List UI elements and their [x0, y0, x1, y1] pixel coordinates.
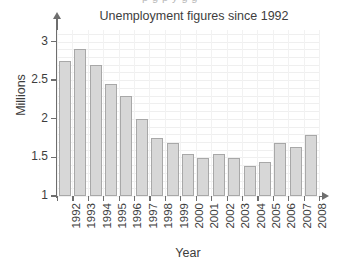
bar-2000 [182, 154, 194, 196]
x-tick-15 [288, 196, 289, 201]
x-tick-6 [149, 196, 150, 201]
x-tick-17 [319, 196, 320, 201]
bar-1996 [120, 96, 132, 196]
x-tick-label-1996: 1996 [131, 203, 143, 229]
x-tick-10 [211, 196, 212, 201]
x-tick-label-2004: 2004 [255, 203, 267, 229]
x-tick-label-2007: 2007 [301, 203, 313, 229]
x-tick-11 [227, 196, 228, 201]
x-tick-16 [304, 196, 305, 201]
clipped-header-text: p g p y g g [0, 0, 340, 3]
chart-title: Unemployment figures since 1992 [58, 9, 330, 23]
bar-1999 [167, 143, 179, 196]
y-tick-2 [51, 118, 57, 119]
x-tick-4 [119, 196, 120, 201]
x-axis-arrow-icon [322, 192, 329, 200]
bar-2006 [274, 143, 286, 196]
x-tick-5 [134, 196, 135, 201]
x-tick-0 [57, 196, 58, 201]
y-tick-2.5 [51, 79, 57, 80]
bar-2003 [228, 158, 240, 196]
bar-2007 [290, 147, 302, 196]
bar-2008 [305, 135, 317, 196]
bar-series [57, 30, 319, 196]
bar-1995 [105, 84, 117, 196]
unemployment-bar-chart: p g p y g g Unemployment figures since 1… [0, 0, 340, 266]
x-tick-label-1999: 1999 [178, 203, 190, 229]
y-tick-label-3: 3 [8, 34, 48, 48]
x-tick-14 [273, 196, 274, 201]
x-tick-label-1998: 1998 [162, 203, 174, 229]
x-tick-label-1997: 1997 [147, 203, 159, 229]
y-tick-3 [51, 41, 57, 42]
x-tick-12 [242, 196, 243, 201]
x-tick-1 [72, 196, 73, 201]
x-tick-label-2006: 2006 [285, 203, 297, 229]
bar-1993 [74, 49, 86, 196]
plot-area [57, 30, 319, 196]
bar-2005 [259, 162, 271, 196]
y-tick-1.5 [51, 157, 57, 158]
x-tick-label-2005: 2005 [270, 203, 282, 229]
x-tick-2 [88, 196, 89, 201]
x-tick-label-1995: 1995 [116, 203, 128, 229]
bar-2001 [197, 158, 209, 196]
x-tick-8 [180, 196, 181, 201]
bar-1997 [136, 119, 148, 196]
x-axis-label: Year [57, 246, 319, 260]
y-tick-label-1.5: 1.5 [8, 149, 48, 163]
bar-1998 [151, 138, 163, 196]
bar-2002 [213, 154, 225, 196]
bar-1992 [59, 61, 71, 196]
y-tick-label-1: 1 [8, 188, 48, 202]
x-tick-7 [165, 196, 166, 201]
x-tick-9 [196, 196, 197, 201]
bar-1994 [90, 65, 102, 196]
bar-2004 [244, 166, 256, 196]
x-tick-label-2002: 2002 [224, 203, 236, 229]
x-tick-3 [103, 196, 104, 201]
x-tick-label-2003: 2003 [239, 203, 251, 229]
x-tick-label-2008: 2008 [316, 203, 328, 229]
x-tick-label-1992: 1992 [70, 203, 82, 229]
y-axis-label: Millions [14, 65, 28, 125]
x-tick-13 [257, 196, 258, 201]
x-tick-label-2001: 2001 [208, 203, 220, 229]
x-tick-label-2000: 2000 [193, 203, 205, 229]
gridline-vertical [319, 30, 320, 196]
x-tick-label-1994: 1994 [101, 203, 113, 229]
x-tick-label-1993: 1993 [85, 203, 97, 229]
